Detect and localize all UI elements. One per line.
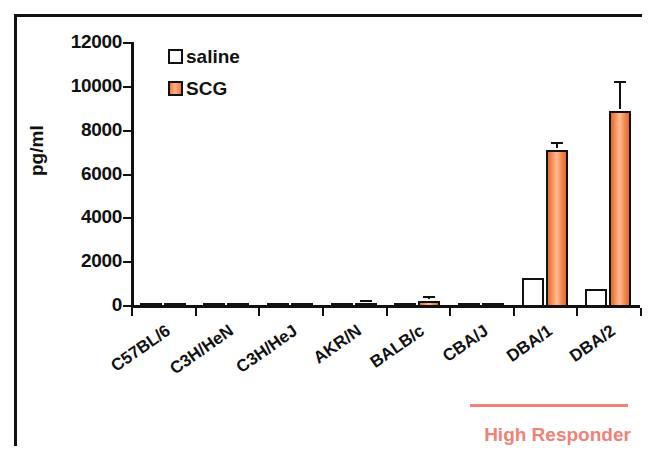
bar-DBA-2-saline [585, 289, 607, 307]
legend: saline SCG [168, 46, 240, 110]
y-tick-label: 0 [112, 294, 122, 316]
figure-border-left [14, 14, 17, 446]
x-tick-mark [640, 308, 642, 316]
y-tick-label: 6000 [81, 163, 122, 185]
x-tick-mark [386, 308, 388, 316]
bar-C3H-HeJ-saline [267, 303, 289, 307]
bar-C3H-HeJ-SCG [291, 303, 313, 307]
y-tick-mark [123, 174, 132, 176]
x-tick-mark [513, 308, 515, 316]
legend-label-scg: SCG [186, 79, 227, 98]
error-bar-cap [360, 300, 372, 302]
error-bar-cap [423, 296, 435, 298]
legend-swatch-saline-icon [168, 49, 183, 64]
error-bar-cap [614, 81, 626, 83]
bar-CBA-J-SCG [482, 303, 504, 307]
y-tick-mark [123, 261, 132, 263]
y-tick-label: 8000 [81, 119, 122, 141]
legend-swatch-scg-icon [168, 81, 183, 96]
x-tick-mark [449, 308, 451, 316]
y-tick-label: 4000 [81, 206, 122, 228]
legend-item-scg: SCG [168, 78, 240, 98]
bar-C3H-HeN-saline [203, 303, 225, 307]
bar-CBA-J-saline [458, 303, 480, 307]
x-tick-mark [258, 308, 260, 316]
bar-AKR-N-SCG [355, 303, 377, 307]
y-tick-mark [123, 42, 132, 44]
x-tick-mark [195, 308, 197, 316]
high-responder-label: High Responder [470, 424, 645, 446]
legend-label-saline: saline [186, 47, 240, 66]
y-tick-label: 10000 [71, 75, 122, 97]
x-tick-mark [131, 308, 133, 316]
bar-C57BL-6-saline [140, 303, 162, 307]
y-tick-mark [123, 86, 132, 88]
figure-bar-chart: pg/ml 020004000600080001000012000 saline… [0, 0, 652, 460]
bar-DBA-2-SCG [609, 111, 631, 307]
y-tick-mark [123, 217, 132, 219]
y-axis-label: pg/ml [26, 146, 48, 176]
y-tick-mark [123, 305, 132, 307]
error-bar-cap [551, 142, 563, 144]
bar-AKR-N-saline [331, 303, 353, 307]
x-tick-mark [322, 308, 324, 316]
bar-DBA-1-saline [522, 278, 544, 307]
bar-C3H-HeN-SCG [227, 303, 249, 307]
legend-item-saline: saline [168, 46, 240, 66]
high-responder-underline [470, 404, 628, 407]
y-tick-label: 12000 [71, 31, 122, 53]
bar-BALB-c-saline [394, 303, 416, 307]
bar-DBA-1-SCG [546, 150, 568, 307]
y-tick-mark [123, 130, 132, 132]
x-axis-label-C57BL-6: C57BL/6 [65, 321, 175, 406]
bar-BALB-c-SCG [418, 301, 440, 307]
x-tick-mark [576, 308, 578, 316]
y-tick-label: 2000 [81, 250, 122, 272]
error-bar-line [619, 81, 621, 108]
bar-C57BL-6-SCG [164, 303, 186, 307]
figure-border-top [14, 14, 642, 17]
